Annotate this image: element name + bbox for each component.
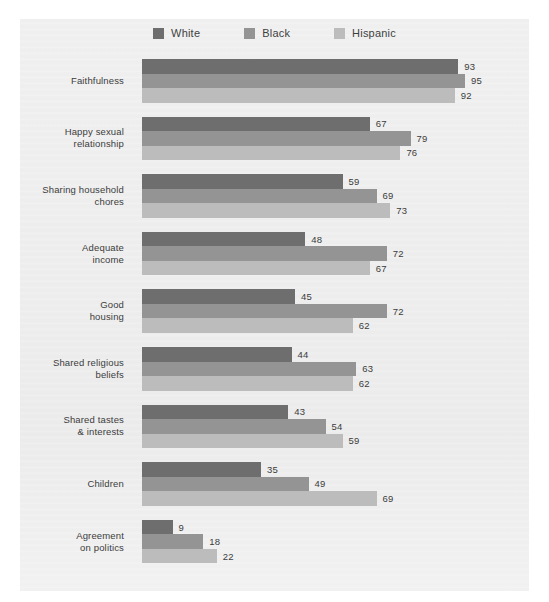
- bar[interactable]: [142, 246, 387, 261]
- bar-value-label: 59: [349, 176, 360, 187]
- category-label-line: chores: [95, 196, 124, 208]
- category-label-line: Good: [100, 299, 124, 311]
- bar-value-label: 76: [406, 147, 417, 158]
- bar[interactable]: [142, 362, 356, 377]
- bar-value-label: 18: [209, 536, 220, 547]
- bar-value-label: 62: [359, 320, 370, 331]
- bar[interactable]: [142, 289, 295, 304]
- bar-row: 18: [142, 534, 529, 549]
- category-label-line: Adequate: [82, 242, 124, 254]
- bar[interactable]: [142, 376, 353, 391]
- bar-group: 596973: [142, 167, 529, 225]
- bar-value-label: 48: [311, 234, 322, 245]
- bar-row: 73: [142, 203, 529, 218]
- legend-swatch-icon: [153, 28, 164, 39]
- bar-value-label: 54: [332, 421, 343, 432]
- chart-plot-area: Faithfulness939592Happy sexualrelationsh…: [20, 52, 529, 587]
- bar[interactable]: [142, 174, 343, 189]
- legend-item[interactable]: Hispanic: [334, 27, 396, 39]
- category-label: Faithfulness: [20, 52, 132, 110]
- bar[interactable]: [142, 189, 377, 204]
- legend-item[interactable]: Black: [244, 27, 290, 39]
- bar-value-label: 35: [267, 464, 278, 475]
- bar-row: 67: [142, 117, 529, 132]
- bar[interactable]: [142, 491, 377, 506]
- bar-row: 76: [142, 146, 529, 161]
- chart-group: Agreementon politics91822: [20, 513, 529, 571]
- bar[interactable]: [142, 347, 292, 362]
- bar-value-label: 67: [376, 118, 387, 129]
- bar[interactable]: [142, 434, 343, 449]
- bar-value-label: 22: [223, 551, 234, 562]
- chart-panel: WhiteBlackHispanic Faithfulness939592Hap…: [20, 19, 529, 591]
- chart-root: WhiteBlackHispanic Faithfulness939592Hap…: [0, 0, 549, 602]
- bar-value-label: 62: [359, 378, 370, 389]
- category-label-line: Sharing household: [42, 184, 124, 196]
- bar-value-label: 92: [461, 90, 472, 101]
- bar-value-label: 49: [315, 478, 326, 489]
- bar[interactable]: [142, 419, 326, 434]
- bar-value-label: 72: [393, 306, 404, 317]
- bar-value-label: 45: [301, 291, 312, 302]
- bar-value-label: 9: [179, 522, 184, 533]
- category-label: Happy sexualrelationship: [20, 110, 132, 168]
- category-label: Children: [20, 455, 132, 513]
- bar[interactable]: [142, 232, 305, 247]
- category-label-line: income: [92, 254, 124, 266]
- bar-row: 9: [142, 520, 529, 535]
- bar-row: 69: [142, 189, 529, 204]
- chart-group: Faithfulness939592: [20, 52, 529, 110]
- category-label-line: & interests: [77, 426, 124, 438]
- bar[interactable]: [142, 131, 411, 146]
- legend-swatch-icon: [334, 28, 345, 39]
- chart-legend: WhiteBlackHispanic: [20, 27, 529, 39]
- bar[interactable]: [142, 74, 465, 89]
- chart-group: Shared religiousbeliefs446362: [20, 340, 529, 398]
- bar[interactable]: [142, 304, 387, 319]
- chart-group: Goodhousing457262: [20, 282, 529, 340]
- bar-value-label: 72: [393, 248, 404, 259]
- bar[interactable]: [142, 117, 370, 132]
- bar[interactable]: [142, 462, 261, 477]
- category-label-line: Children: [87, 478, 124, 490]
- bar[interactable]: [142, 88, 455, 103]
- bar-row: 63: [142, 362, 529, 377]
- bar[interactable]: [142, 59, 458, 74]
- bar[interactable]: [142, 405, 288, 420]
- legend-item[interactable]: White: [153, 27, 200, 39]
- bar-row: 54: [142, 419, 529, 434]
- bar-row: 95: [142, 74, 529, 89]
- bar[interactable]: [142, 203, 390, 218]
- legend-label: White: [171, 27, 200, 39]
- bar[interactable]: [142, 477, 309, 492]
- bar-value-label: 43: [294, 406, 305, 417]
- bar-value-label: 95: [471, 75, 482, 86]
- bar[interactable]: [142, 146, 400, 161]
- bar[interactable]: [142, 261, 370, 276]
- category-label-line: relationship: [74, 138, 124, 150]
- bar-value-label: 67: [376, 263, 387, 274]
- bar-group: 354969: [142, 455, 529, 513]
- bar-group: 435459: [142, 398, 529, 456]
- bar-value-label: 59: [349, 435, 360, 446]
- bar-group: 487267: [142, 225, 529, 283]
- bar-row: 62: [142, 376, 529, 391]
- bar-value-label: 93: [464, 61, 475, 72]
- category-label-line: housing: [90, 311, 124, 323]
- category-label-line: Shared religious: [53, 357, 124, 369]
- category-label: Goodhousing: [20, 282, 132, 340]
- bar[interactable]: [142, 318, 353, 333]
- bar-row: 22: [142, 549, 529, 564]
- bar[interactable]: [142, 534, 203, 549]
- bar-row: 35: [142, 462, 529, 477]
- category-label: Adequateincome: [20, 225, 132, 283]
- category-label: Sharing householdchores: [20, 167, 132, 225]
- chart-group: Shared tastes& interests435459: [20, 398, 529, 456]
- bar-value-label: 69: [383, 493, 394, 504]
- bar-row: 92: [142, 88, 529, 103]
- legend-swatch-icon: [244, 28, 255, 39]
- bar-row: 67: [142, 261, 529, 276]
- bar[interactable]: [142, 549, 217, 564]
- bar-row: 45: [142, 289, 529, 304]
- bar[interactable]: [142, 520, 173, 535]
